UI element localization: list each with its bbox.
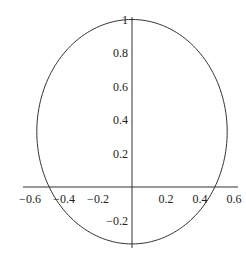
axes (23, 17, 238, 248)
y-tick-label: 0.4 (113, 113, 128, 127)
y-tick-label: 0.8 (113, 46, 128, 60)
y-tick-label: 0.6 (113, 80, 128, 94)
x-tick-label: 0.6 (227, 192, 242, 206)
x-tick-label: −0.6 (19, 192, 41, 206)
y-tick-labels: 10.80.60.40.2−0.2 (106, 13, 128, 228)
y-tick-label: −0.2 (106, 214, 128, 228)
chart: −0.6−0.4−0.20.20.40.6 10.80.60.40.2−0.2 (0, 0, 246, 257)
x-tick-label: 0.2 (159, 192, 174, 206)
y-tick-label: 0.2 (113, 147, 128, 161)
x-tick-label: −0.2 (87, 192, 109, 206)
